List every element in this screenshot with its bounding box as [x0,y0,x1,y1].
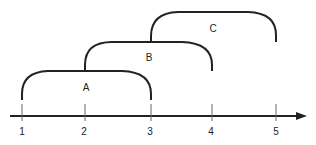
tick-label-1: 1 [19,126,25,137]
axis-arrow-icon [296,112,307,120]
tick-label-3: 3 [147,126,153,137]
tick-label-5: 5 [273,126,279,137]
tick-label-4: 4 [208,126,214,137]
diagram-svg: 1 2 3 4 5 A B C [0,0,316,145]
interval-label-a: A [83,82,90,93]
interval-label-b: B [146,52,153,63]
interval-diagram: 1 2 3 4 5 A B C [0,0,316,145]
interval-label-c: C [209,23,216,34]
tick-marks [22,104,276,121]
tick-label-2: 2 [81,126,87,137]
